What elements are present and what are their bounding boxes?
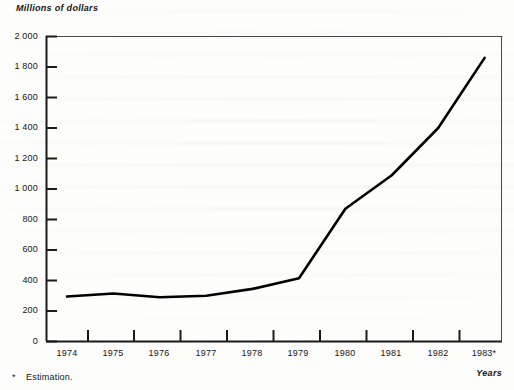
footnote-marker: * [12, 372, 26, 382]
y-tick-label-1600: 1 600 [0, 92, 38, 102]
x-tick-label-1981: 1981 [366, 348, 416, 358]
line-chart-plot [0, 0, 514, 390]
x-tick-label-1979: 1979 [273, 348, 323, 358]
x-tick-label-1983: 1983* [459, 348, 509, 358]
y-axis-ticks [46, 37, 57, 342]
x-tick-label-1980: 1980 [320, 348, 370, 358]
plot-frame [46, 36, 503, 342]
x-axis-title: Years [476, 368, 502, 378]
x-axis-ticks [88, 330, 460, 341]
footnote: *Estimation. [12, 372, 73, 382]
y-tick-label-400: 400 [0, 275, 38, 285]
y-tick-label-1400: 1 400 [0, 122, 38, 132]
y-tick-label-1200: 1 200 [0, 153, 38, 163]
footnote-text: Estimation. [26, 372, 73, 382]
y-tick-label-2000: 2 000 [0, 31, 38, 41]
y-tick-label-200: 200 [0, 305, 38, 315]
x-tick-label-1977: 1977 [181, 348, 231, 358]
chart-page: Millions of dollars [0, 0, 514, 390]
x-tick-label-1974: 1974 [42, 348, 92, 358]
x-tick-label-1982: 1982 [413, 348, 463, 358]
x-tick-label-1978: 1978 [227, 348, 277, 358]
y-tick-label-600: 600 [0, 244, 38, 254]
x-tick-label-1976: 1976 [134, 348, 184, 358]
data-series-line [67, 58, 485, 297]
y-tick-label-1000: 1 000 [0, 183, 38, 193]
x-tick-label-1975: 1975 [88, 348, 138, 358]
y-tick-label-0: 0 [0, 336, 38, 346]
y-tick-label-800: 800 [0, 214, 38, 224]
y-tick-label-1800: 1 800 [0, 61, 38, 71]
